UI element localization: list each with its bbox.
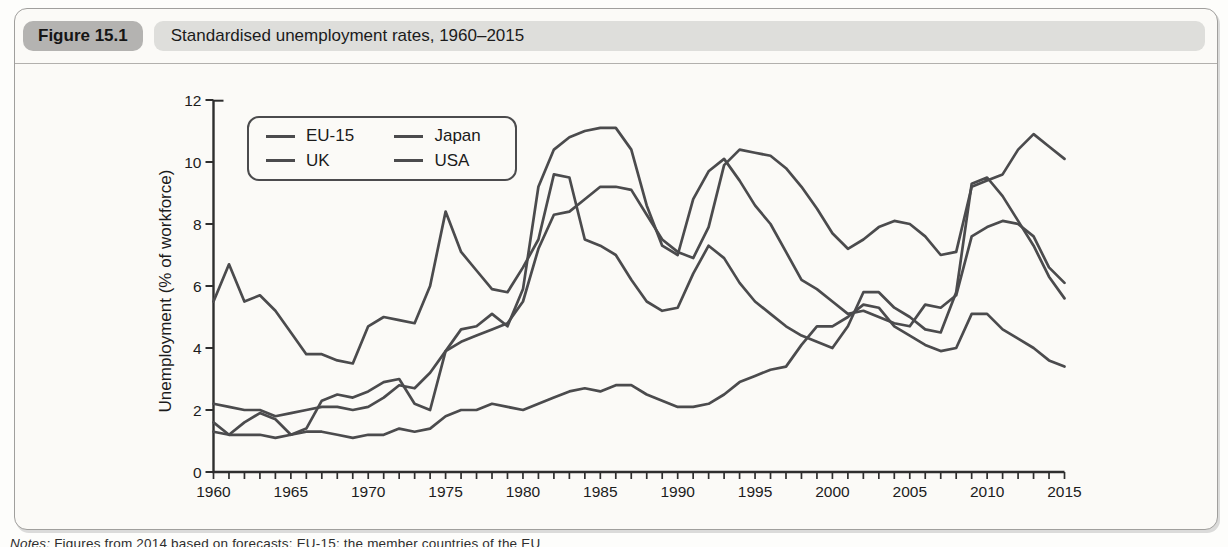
figure-number-badge: Figure 15.1 [23,21,143,51]
legend-line-swatch-icon [266,159,295,162]
legend-label: EU-15 [306,126,354,146]
legend-label: USA [434,151,469,171]
legend-line-swatch-icon [394,159,423,162]
figure-panel: Figure 15.1 Standardised unemployment ra… [14,8,1218,530]
legend-item-japan: Japan [394,124,505,149]
legend-label: UK [306,151,330,171]
figure-note: Notes: Figures from 2014 based on foreca… [10,536,540,547]
legend-label: Japan [434,126,480,146]
textbook-figure-page: Figure 15.1 Standardised unemployment ra… [0,0,1228,547]
figure-header: Figure 15.1 Standardised unemployment ra… [15,9,1217,64]
legend-item-usa: USA [394,149,505,174]
legend-line-swatch-icon [266,135,295,138]
legend-item-eu-15: EU-15 [266,124,378,149]
legend-item-uk: UK [266,149,378,174]
chart-legend: EU-15UKJapanUSA [247,116,517,181]
figure-title: Standardised unemployment rates, 1960–20… [154,21,1205,51]
y-axis-title: Unemployment (% of workforce) [156,170,176,413]
legend-line-swatch-icon [394,135,423,138]
note-prefix-label: Notes: [10,536,54,547]
note-text: Figures from 2014 based on forecasts; EU… [54,536,540,547]
